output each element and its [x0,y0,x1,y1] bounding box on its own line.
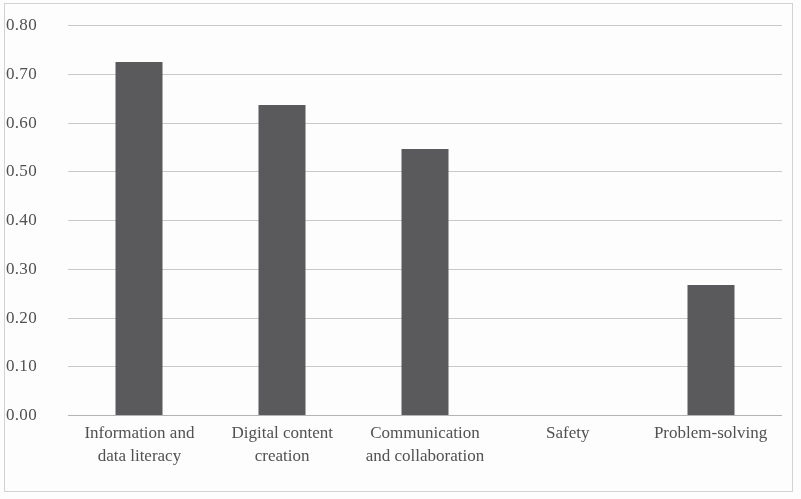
x-axis-label: Problem-solving [639,421,782,444]
y-tick-label: 0.10 [6,356,68,376]
bar [259,105,306,415]
plot-area [68,25,782,415]
x-axis-label: Safety [496,421,639,444]
gridline-0.00 [68,415,782,416]
y-tick-label: 0.00 [6,405,68,425]
bar [687,285,734,415]
bar-chart-figure: 0.800.700.600.500.400.300.200.100.00 Inf… [0,0,801,499]
y-tick-label: 0.70 [6,64,68,84]
x-axis-label-line: Communication [354,421,497,444]
x-axis-label-line: data literacy [68,444,211,467]
x-axis-label-line: Digital content [211,421,354,444]
x-axis-label: Communicationand collaboration [354,421,497,467]
y-tick-label: 0.30 [6,259,68,279]
x-axis-label: Information anddata literacy [68,421,211,467]
x-axis-label: Digital contentcreation [211,421,354,467]
x-axis-category-labels: Information anddata literacyDigital cont… [68,421,782,491]
y-tick-label: 0.50 [6,161,68,181]
x-axis-label-line: Problem-solving [639,421,782,444]
bar-slot [354,25,497,415]
bar [116,62,163,415]
x-axis-label-line: Information and [68,421,211,444]
bar-series [68,25,782,415]
bar-slot [639,25,782,415]
x-axis-label-line: creation [211,444,354,467]
y-tick-label: 0.20 [6,308,68,328]
y-tick-label: 0.60 [6,113,68,133]
x-axis-label-line: and collaboration [354,444,497,467]
bar-slot [496,25,639,415]
y-tick-label: 0.80 [6,15,68,35]
bar [401,149,448,415]
y-tick-label: 0.40 [6,210,68,230]
x-axis-label-line: Safety [496,421,639,444]
bar-slot [211,25,354,415]
bar-slot [68,25,211,415]
